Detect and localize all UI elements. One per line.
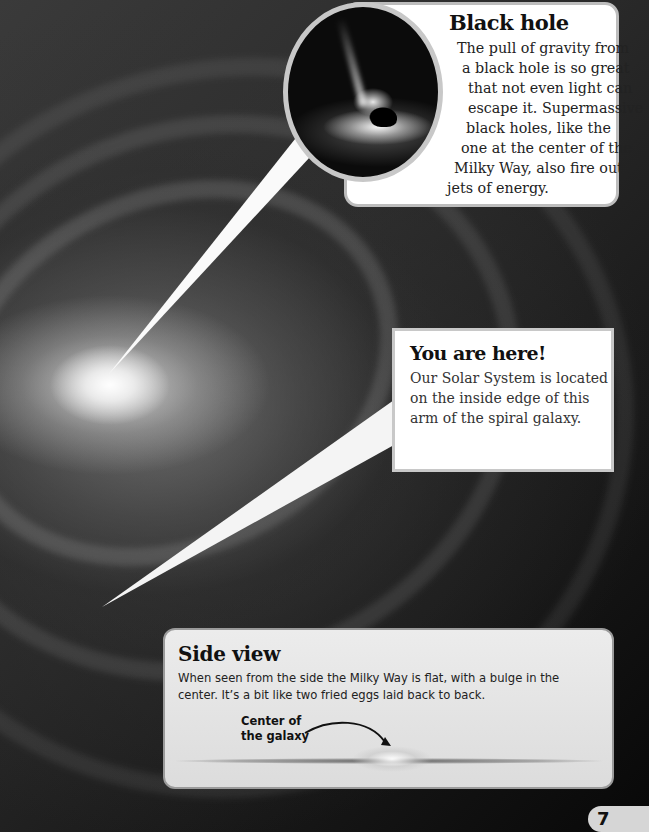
text-line: one at the center of the [461,138,632,159]
side-view-text: When seen from the side the Milky Way is… [178,670,598,704]
text-line: The pull of gravity from [457,38,629,59]
label-line: the galaxy [241,729,309,744]
text-line: jets of energy. [447,178,549,199]
energy-jet [336,17,367,106]
text-line: a black hole is so great [462,58,630,79]
you-are-here-text: Our Solar System is located on the insid… [410,368,610,428]
text-line: that not even light can [468,78,632,99]
black-hole-shape [371,109,397,127]
text-line: escape it. Supermassive [468,98,643,119]
you-are-here-title: You are here! [410,342,546,364]
text-line: Milky Way, also fire out [454,158,623,179]
center-of-galaxy-label: Center of the galaxy [241,714,309,744]
label-line: Center of [241,714,309,729]
side-view-title: Side view [178,642,280,666]
side-view-galaxy-bulge [352,744,432,774]
black-hole-title: Black hole [449,10,569,35]
black-hole-image [283,2,443,182]
text-line: black holes, like the [466,118,611,139]
page-number: 7 [597,806,610,832]
